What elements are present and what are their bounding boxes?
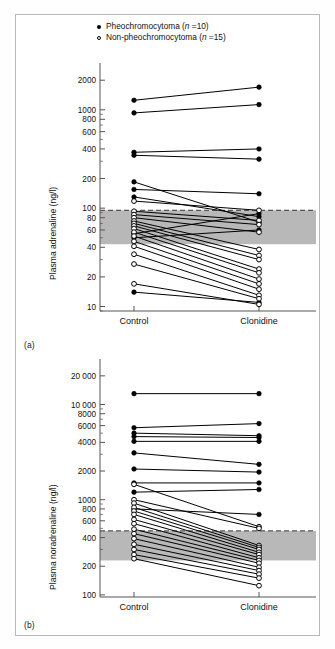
- data-point-non-pheochromocytoma: [132, 252, 137, 257]
- data-point-non-pheochromocytoma: [257, 583, 262, 588]
- pair-connector-line: [134, 437, 259, 438]
- pair-connector-line: [134, 149, 259, 152]
- data-point-non-pheochromocytoma: [132, 234, 137, 239]
- data-point-non-pheochromocytoma: [132, 281, 137, 286]
- data-point-non-pheochromocytoma: [257, 302, 262, 307]
- data-point-pheochromocytoma: [257, 157, 262, 162]
- data-point-non-pheochromocytoma: [257, 287, 262, 292]
- y-tick-label: 1000: [78, 496, 97, 505]
- data-point-pheochromocytoma: [132, 439, 137, 444]
- pair-connector-line: [134, 453, 259, 464]
- figure-frame: Pheochromocytoma (n =10) Non-pheochromoc…: [15, 14, 320, 636]
- figure-container: Pheochromocytoma (n =10) Non-pheochromoc…: [0, 0, 335, 649]
- data-point-pheochromocytoma: [257, 102, 262, 107]
- x-tick-label-control: Control: [119, 316, 148, 326]
- pair-connector-line: [134, 469, 259, 472]
- data-point-non-pheochromocytoma: [257, 277, 262, 282]
- data-point-pheochromocytoma: [132, 391, 137, 396]
- y-tick-label: 800: [82, 505, 96, 514]
- data-point-pheochromocytoma: [257, 191, 262, 196]
- chart-panel-a: Plasma adrenaline (ng/l) 102040608010020…: [16, 45, 319, 335]
- y-tick-label: 10: [87, 303, 97, 312]
- data-point-pheochromocytoma: [132, 451, 137, 456]
- data-point-pheochromocytoma: [257, 391, 262, 396]
- data-point-non-pheochromocytoma: [132, 512, 137, 517]
- data-point-non-pheochromocytoma: [257, 257, 262, 262]
- data-point-non-pheochromocytoma: [257, 576, 262, 581]
- pair-connector-line: [134, 433, 259, 436]
- filled-circle-icon: [94, 21, 103, 32]
- pair-connector-line: [134, 254, 259, 295]
- y-tick-label: 400: [82, 145, 96, 154]
- data-point-non-pheochromocytoma: [132, 199, 137, 204]
- chart-panel-b: Plasma noradrenaline (ng/l) 100200400600…: [16, 345, 319, 625]
- plot-area-b: 1002004006008001000200040006000800010 00…: [16, 345, 319, 625]
- y-tick-label: 4000: [78, 438, 97, 447]
- data-point-pheochromocytoma: [132, 180, 137, 185]
- data-point-pheochromocytoma: [132, 187, 137, 192]
- data-point-pheochromocytoma: [132, 490, 137, 495]
- data-point-non-pheochromocytoma: [132, 521, 137, 526]
- data-point-non-pheochromocytoma: [132, 556, 137, 561]
- y-tick-label: 200: [82, 175, 96, 184]
- data-point-pheochromocytoma: [132, 98, 137, 103]
- data-point-pheochromocytoma: [132, 153, 137, 158]
- data-point-non-pheochromocytoma: [257, 281, 262, 286]
- y-tick-label: 2000: [78, 467, 97, 476]
- data-point-pheochromocytoma: [132, 467, 137, 472]
- y-tick-label: 1000: [78, 106, 97, 115]
- data-point-pheochromocytoma: [257, 487, 262, 492]
- y-tick-label: 100: [82, 204, 96, 213]
- data-point-non-pheochromocytoma: [257, 270, 262, 275]
- data-point-non-pheochromocytoma: [257, 208, 262, 213]
- y-tick-label: 2000: [78, 76, 97, 85]
- data-point-pheochromocytoma: [257, 85, 262, 90]
- legend: Pheochromocytoma (n =10) Non-pheochromoc…: [94, 21, 226, 43]
- x-tick-label-control: Control: [119, 602, 148, 612]
- panel-label-b: (b): [24, 620, 35, 630]
- y-tick-label: 20 000: [71, 372, 96, 381]
- y-tick-label: 8000: [78, 410, 97, 419]
- y-tick-label: 80: [87, 214, 97, 223]
- legend-label-non-pheochromocytoma: Non-pheochromocytoma (n =15): [106, 32, 226, 43]
- pair-connector-line: [134, 424, 259, 428]
- legend-item-non-pheochromocytoma: Non-pheochromocytoma (n =15): [94, 32, 226, 43]
- y-tick-label: 400: [82, 534, 96, 543]
- x-tick-label-clonidine: Clonidine: [240, 316, 278, 326]
- y-tick-label: 60: [87, 226, 97, 235]
- data-point-non-pheochromocytoma: [257, 230, 262, 235]
- x-tick-label-clonidine: Clonidine: [240, 602, 278, 612]
- plot-area-a: 102040608010020040060080010002000Control…: [16, 45, 319, 335]
- data-point-pheochromocytoma: [257, 462, 262, 467]
- y-tick-label: 200: [82, 562, 96, 571]
- data-point-pheochromocytoma: [257, 439, 262, 444]
- data-point-non-pheochromocytoma: [132, 531, 137, 536]
- open-circle-icon: [94, 32, 103, 43]
- data-point-non-pheochromocytoma: [132, 547, 137, 552]
- data-point-non-pheochromocytoma: [257, 526, 262, 531]
- data-point-non-pheochromocytoma: [257, 222, 262, 227]
- data-point-pheochromocytoma: [132, 425, 137, 430]
- data-point-pheochromocytoma: [257, 470, 262, 475]
- data-point-non-pheochromocytoma: [132, 244, 137, 249]
- data-point-non-pheochromocytoma: [132, 239, 137, 244]
- data-point-non-pheochromocytoma: [132, 262, 137, 267]
- y-tick-label: 100: [82, 591, 96, 600]
- pair-connector-line: [134, 155, 259, 159]
- data-point-pheochromocytoma: [257, 147, 262, 152]
- data-point-pheochromocytoma: [132, 111, 137, 116]
- data-point-pheochromocytoma: [257, 512, 262, 517]
- pair-connector-line: [134, 87, 259, 100]
- y-tick-label: 10 000: [71, 401, 96, 410]
- data-point-pheochromocytoma: [132, 434, 137, 439]
- pair-connector-line: [134, 189, 259, 193]
- data-point-non-pheochromocytoma: [132, 542, 137, 547]
- data-point-non-pheochromocytoma: [257, 247, 262, 252]
- y-axis-title-a: Plasma adrenaline (ng/l): [48, 187, 58, 280]
- data-point-non-pheochromocytoma: [257, 296, 262, 301]
- y-tick-label: 800: [82, 115, 96, 124]
- legend-item-pheochromocytoma: Pheochromocytoma (n =10): [94, 21, 226, 32]
- pair-connector-line: [134, 105, 259, 113]
- data-point-pheochromocytoma: [257, 421, 262, 426]
- y-tick-label: 600: [82, 128, 96, 137]
